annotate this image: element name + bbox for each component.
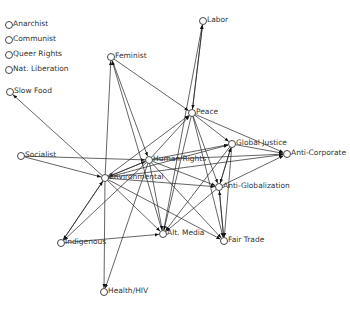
node-label-humanrights: Human Rights <box>153 154 206 163</box>
node-label-natlib: Nat. Liberation <box>13 64 69 73</box>
edge-globaljustice-to-fairtrade <box>224 147 231 237</box>
node-labor[interactable] <box>200 18 207 25</box>
edge-environmental-to-peace <box>108 115 189 176</box>
node-label-slowfood: Slow Food <box>14 86 52 95</box>
node-label-feminist: Feminist <box>115 51 147 60</box>
node-communist[interactable] <box>6 37 13 44</box>
node-label-health: Health/HIV <box>108 286 148 295</box>
node-label-globaljustice: Global Justice <box>236 138 287 147</box>
edge-environmental-to-feminist <box>105 61 111 175</box>
edge-peace-to-fairtrade <box>193 116 223 237</box>
node-label-communist: Communist <box>13 34 56 43</box>
node-label-anticorp: Anti-Corporate <box>291 148 346 157</box>
node-natlib[interactable] <box>6 67 13 74</box>
edge-peace-to-globaljustice <box>195 115 229 141</box>
node-queer[interactable] <box>6 52 13 59</box>
node-feminist[interactable] <box>108 54 115 61</box>
node-altmedia[interactable] <box>160 231 167 238</box>
edge-altmedia-to-labor <box>164 25 203 231</box>
edge-socialist-to-environmental <box>24 157 101 177</box>
edge-indigenous-to-environmental <box>63 181 103 240</box>
node-label-indigenous: Indigenous <box>65 237 106 246</box>
node-label-antiglob: Anti-Globalization <box>223 181 290 190</box>
edge-environmental-to-slowfood <box>13 95 102 176</box>
node-label-queer: Queer Rights <box>13 49 62 58</box>
edge-antiglob-to-altmedia <box>166 189 216 231</box>
node-anticorp[interactable] <box>284 151 291 158</box>
edge-feminist-to-peace <box>114 59 189 111</box>
node-label-altmedia: Alt. Media <box>167 228 204 237</box>
node-indigenous[interactable] <box>58 240 65 247</box>
node-slowfood[interactable] <box>7 89 14 96</box>
node-humanrights[interactable] <box>146 157 153 164</box>
edge-humanrights-to-peace <box>151 116 189 157</box>
node-anarchist[interactable] <box>6 22 13 29</box>
node-label-environmental: Environmental <box>109 172 164 181</box>
node-label-anarchist: Anarchist <box>13 19 48 28</box>
edge-altmedia-to-feminist <box>112 61 162 231</box>
node-socialist[interactable] <box>18 153 25 160</box>
edge-humanrights-to-health <box>105 163 148 288</box>
edge-peace-to-antiglob <box>193 116 217 183</box>
node-peace[interactable] <box>189 110 196 117</box>
node-label-peace: Peace <box>196 107 218 116</box>
node-health[interactable] <box>101 289 108 296</box>
edge-labor-to-peace <box>192 24 202 109</box>
edge-environmental-to-health <box>104 181 105 288</box>
node-label-labor: Labor <box>207 15 228 24</box>
edge-peace-to-altmedia <box>164 116 191 230</box>
node-label-fairtrade: Fair Trade <box>228 235 264 244</box>
node-antiglob[interactable] <box>216 184 223 191</box>
node-environmental[interactable] <box>102 175 109 182</box>
edge-environmental-to-altmedia <box>108 180 161 231</box>
edge-feminist-to-humanrights <box>112 60 147 156</box>
node-fairtrade[interactable] <box>221 238 228 245</box>
node-globaljustice[interactable] <box>229 141 236 148</box>
node-label-socialist: Socialist <box>25 150 56 159</box>
